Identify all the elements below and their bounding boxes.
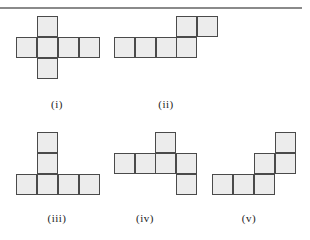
net-square	[254, 153, 275, 174]
label-iv: (iv)	[136, 212, 154, 224]
label-iii: (iii)	[48, 212, 67, 224]
net-v	[0, 0, 310, 240]
label-ii: (ii)	[158, 98, 173, 110]
net-square	[275, 153, 296, 174]
label-i: (i)	[51, 98, 63, 110]
net-square	[233, 174, 254, 195]
net-square	[212, 174, 233, 195]
net-square	[275, 132, 296, 153]
label-v: (v)	[242, 212, 256, 224]
net-square	[254, 174, 275, 195]
